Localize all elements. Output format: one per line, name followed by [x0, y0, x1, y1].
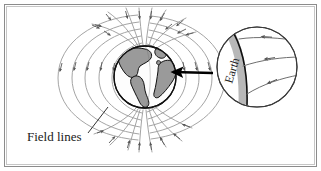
field-lines-leader — [88, 107, 108, 133]
figure-root: Earth Field lines — [0, 0, 321, 171]
field-lines-label-group: Field lines — [27, 107, 108, 144]
arrow-right-6 — [178, 29, 186, 33]
arrow-south-5 — [150, 143, 151, 150]
landmass-island-small — [157, 61, 161, 65]
arrow-left-1 — [60, 63, 62, 71]
field-line-south-6 — [149, 109, 166, 147]
mag-arrow-1 — [262, 37, 272, 38]
arrow-south-8 — [183, 125, 190, 128]
arrow-north-4 — [139, 11, 140, 19]
arrow-south-4 — [139, 143, 140, 150]
arrow-left-5 — [113, 63, 114, 70]
field-line-south-1 — [94, 108, 136, 134]
callout-pointer-arrow — [173, 72, 213, 73]
earth-globe — [114, 46, 176, 108]
arrow-north-3 — [126, 11, 128, 18]
arrow-north-2 — [106, 14, 111, 20]
arrow-south-6 — [161, 138, 165, 145]
field-lines-label: Field lines — [27, 129, 82, 144]
earth-magnetic-field-diagram: Earth Field lines — [0, 0, 321, 171]
arrow-south-7 — [174, 134, 180, 139]
arrow-left-7 — [104, 31, 110, 35]
